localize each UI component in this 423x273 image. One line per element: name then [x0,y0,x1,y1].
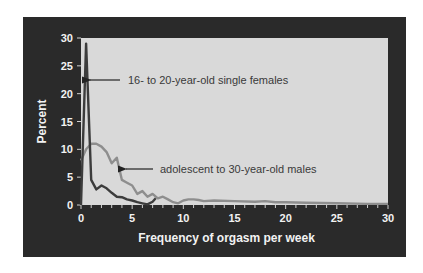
x-axis-title: Frequency of orgasm per week [138,231,315,245]
y-tick-label: 25 [61,60,73,72]
x-tick-label: 20 [280,212,292,224]
females-annotation: 16- to 20-year-old single females [128,74,289,86]
plot-area [81,38,388,205]
y-tick-label: 20 [61,88,73,100]
y-axis: 051015202530 [61,32,81,211]
y-tick-label: 0 [67,199,73,211]
x-tick-label: 10 [177,212,189,224]
x-tick-label: 15 [228,212,240,224]
x-tick-label: 25 [331,212,343,224]
y-axis-title: Percent [35,99,49,143]
males-annotation: adolescent to 30-year-old males [160,163,317,175]
y-tick-label: 15 [61,116,73,128]
y-tick-label: 10 [61,143,73,155]
x-tick-label: 5 [129,212,135,224]
line-chart: 051015202530 051015202530 16- to 20-year… [0,0,423,273]
x-axis: 051015202530 [78,205,394,224]
x-tick-label: 0 [78,212,84,224]
x-tick-label: 30 [382,212,394,224]
y-tick-label: 30 [61,32,73,44]
y-tick-label: 5 [67,171,73,183]
